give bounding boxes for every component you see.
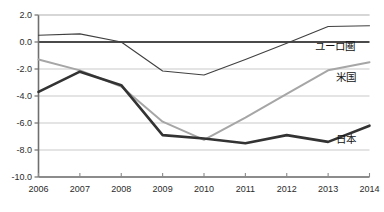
x-tick-label: 2007 <box>60 185 100 194</box>
y-tick-label: 0.0 <box>2 38 32 47</box>
y-tick-label: -10.0 <box>2 173 32 182</box>
series-line-米国 <box>39 60 370 140</box>
series-line-日本 <box>39 72 370 144</box>
y-tick-label: -6.0 <box>2 119 32 128</box>
series-label-日本: 日本 <box>336 134 356 145</box>
y-tick-label: 2.0 <box>2 11 32 20</box>
x-tick-label: 2012 <box>267 185 307 194</box>
x-tick-label: 2011 <box>225 185 265 194</box>
y-tick-label: -4.0 <box>2 92 32 101</box>
x-tick-label: 2009 <box>143 185 183 194</box>
x-tick-label: 2006 <box>19 185 59 194</box>
x-tick-label: 2014 <box>350 185 384 194</box>
y-tick-label: -8.0 <box>2 146 32 155</box>
series-label-ユーロ圏: ユーロ圏 <box>315 41 355 52</box>
y-tick-label: -2.0 <box>2 65 32 74</box>
x-tick-label: 2013 <box>308 185 348 194</box>
series-label-米国: 米国 <box>336 72 356 83</box>
x-tick-label: 2008 <box>101 185 141 194</box>
x-tick-label: 2010 <box>184 185 224 194</box>
